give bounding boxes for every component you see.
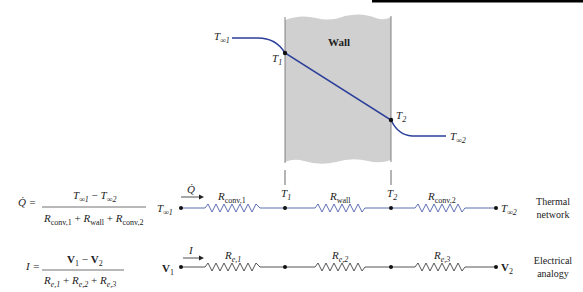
thermal-equation: Q̇ = T∞1 − T∞2 Rconv,1 + Rwall + Rconv,2 [18, 189, 146, 227]
thermal-left-node-label: T∞1 [157, 202, 173, 217]
wall-label: Wall [328, 36, 350, 48]
thermal-wire [181, 204, 496, 212]
electrical-caption-line2: analogy [537, 268, 569, 279]
electrical-node-1 [283, 265, 287, 269]
thermal-resistance-diagram: Wall T∞1 T1 T2 T∞2 Q̇ = T∞1 − T∞2 Rconv,… [0, 0, 583, 292]
t-inf1-label: T∞1 [214, 30, 230, 45]
thermal-flow-arrowhead [199, 195, 204, 200]
t2-point [389, 118, 393, 122]
electrical-resistor-1-label: Re,1 [224, 249, 241, 264]
thermal-node-t2 [389, 206, 393, 210]
electrical-flow-label: I [188, 244, 194, 256]
thermal-eq-lhs: Q̇ = [18, 196, 36, 208]
t1-label: T1 [272, 52, 282, 67]
thermal-resistor-2-label: Rwall [329, 190, 351, 205]
electrical-resistor-2-label: Re,2 [331, 249, 348, 264]
electrical-eq-lhs: I = [25, 260, 40, 272]
thermal-right-node-label: T∞2 [501, 202, 517, 217]
t2-label: T2 [396, 109, 406, 124]
t1-point [283, 51, 287, 55]
thermal-eq-denominator: Rconv,1 + Rwall + Rconv,2 [43, 212, 143, 227]
thermal-resistor-1-label: Rconv,1 [217, 190, 246, 205]
thermal-right-node [494, 206, 498, 210]
electrical-equation: I = V1 − V2 Re,1 + Re,2 + Re,3 [25, 253, 124, 289]
electrical-caption-line1: Electrical [534, 255, 573, 266]
thermal-caption-line1: Thermal [536, 196, 570, 207]
electrical-flow-arrowhead [199, 256, 204, 261]
thermal-network: Q̇ = T∞1 − T∞2 Rconv,1 + Rwall + Rconv,2… [18, 183, 570, 227]
electrical-eq-denominator: Re,1 + Re,2 + Re,3 [43, 274, 116, 289]
thermal-left-node [179, 206, 183, 210]
electrical-resistor-3-label: Re,3 [433, 249, 450, 264]
thermal-resistor-3-label: Rconv,2 [427, 190, 456, 205]
top-bar [372, 0, 583, 3]
thermal-eq-numerator: T∞1 − T∞2 [73, 189, 116, 204]
electrical-analogy: I = V1 − V2 Re,1 + Re,2 + Re,3 V1 I Re,1… [25, 244, 572, 289]
electrical-left-node [179, 265, 183, 269]
t-inf2-label: T∞2 [450, 130, 466, 145]
thermal-flow-label: Q̇ [187, 183, 195, 195]
electrical-right-node [494, 265, 498, 269]
electrical-eq-numerator: V1 − V2 [67, 253, 103, 268]
thermal-node-t2-label: T2 [387, 187, 397, 202]
electrical-left-node-label: V1 [162, 262, 174, 277]
wall-figure: Wall T∞1 T1 T2 T∞2 [214, 14, 466, 185]
thermal-node-t1 [283, 206, 287, 210]
electrical-node-2 [389, 265, 393, 269]
electrical-wire [181, 263, 496, 271]
thermal-caption-line2: network [537, 209, 570, 220]
thermal-node-t1-label: T1 [281, 187, 291, 202]
electrical-right-node-label: V2 [501, 261, 513, 276]
